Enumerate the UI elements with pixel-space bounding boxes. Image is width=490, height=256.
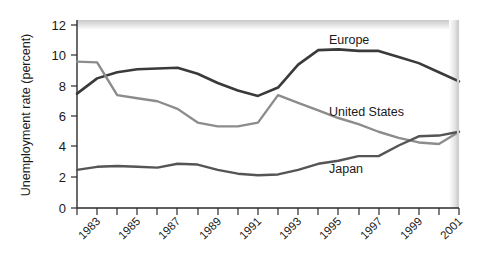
xtick-label-1989: 1989	[197, 215, 224, 242]
xtick-label-1991: 1991	[237, 215, 264, 242]
y-axis-ticks	[71, 25, 77, 208]
ytick-label-4: 4	[59, 139, 66, 154]
xtick-label-1997: 1997	[358, 215, 385, 242]
series-label-europe: Europe	[329, 33, 369, 47]
x-axis-tick-labels: 1983 1985 1987 1989 1991 1993 1995 1997 …	[76, 215, 465, 242]
x-axis-ticks	[77, 208, 459, 215]
y-axis-tick-labels: 0 2 4 6 8 10 12	[52, 18, 66, 216]
ytick-label-0: 0	[59, 201, 66, 216]
xtick-label-1999: 1999	[398, 215, 425, 242]
xtick-label-1987: 1987	[156, 215, 183, 242]
ytick-label-8: 8	[59, 79, 66, 94]
xtick-label-1985: 1985	[116, 215, 143, 242]
xtick-label-1995: 1995	[317, 215, 344, 242]
ytick-label-12: 12	[52, 18, 66, 33]
series-label-united-states: United States	[329, 105, 404, 119]
ytick-label-2: 2	[59, 170, 66, 185]
xtick-label-1983: 1983	[76, 215, 103, 242]
y-axis-title: Unemployment rate (percent)	[19, 34, 33, 197]
ytick-label-10: 10	[52, 48, 66, 63]
unemployment-rate-chart: 0 2 4 6 8 10 12 Unemployment rate (perce…	[0, 0, 490, 256]
chart-canvas: 0 2 4 6 8 10 12 Unemployment rate (perce…	[0, 0, 490, 256]
x-axis: 1983 1985 1987 1989 1991 1993 1995 1997 …	[76, 208, 465, 242]
series-label-japan: Japan	[329, 162, 363, 176]
xtick-label-1993: 1993	[277, 215, 304, 242]
y-axis: 0 2 4 6 8 10 12 Unemployment rate (perce…	[19, 18, 77, 216]
ytick-label-6: 6	[59, 109, 66, 124]
xtick-label-2001: 2001	[438, 215, 465, 242]
